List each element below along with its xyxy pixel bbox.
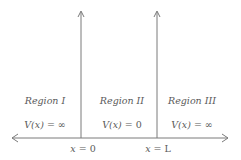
right-wall-line bbox=[154, 11, 160, 138]
potential-value: = 0 bbox=[125, 119, 142, 130]
region-1-potential: V(x) = ∞ bbox=[24, 119, 66, 130]
boundary-label-x0: x = 0 bbox=[70, 143, 95, 154]
left-wall-line bbox=[78, 11, 84, 138]
potential-var: V(x) bbox=[24, 119, 44, 130]
region-3-potential: V(x) = ∞ bbox=[171, 119, 213, 130]
region-1-title: Region I bbox=[25, 95, 66, 106]
region-2-title: Region II bbox=[100, 95, 144, 106]
position-var: x bbox=[70, 143, 75, 154]
well-diagram bbox=[0, 0, 241, 160]
potential-value: = ∞ bbox=[194, 119, 213, 130]
potential-var: V(x) bbox=[102, 119, 122, 130]
horizontal-axis bbox=[12, 134, 228, 142]
region-2-potential: V(x) = 0 bbox=[102, 119, 142, 130]
potential-value: = ∞ bbox=[47, 119, 66, 130]
potential-var: V(x) bbox=[171, 119, 191, 130]
position-value: = 0 bbox=[79, 143, 96, 154]
position-value: = L bbox=[154, 143, 171, 154]
position-var: x bbox=[145, 143, 150, 154]
boundary-label-xL: x = L bbox=[145, 143, 171, 154]
region-3-title: Region III bbox=[168, 95, 216, 106]
